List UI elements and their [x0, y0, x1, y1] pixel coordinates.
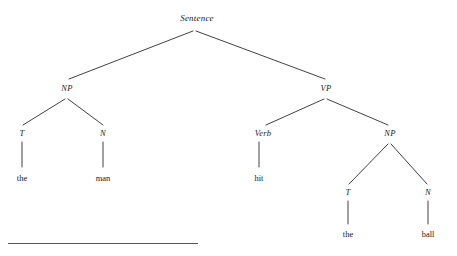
tree-terminal-word-hit: hit [255, 174, 264, 183]
tree-node-np1: NP [61, 84, 72, 93]
tree-terminal-word-the-2: the [343, 230, 353, 239]
tree-node-sentence: Sentence [180, 14, 214, 23]
tree-branch-sentence-to-np1 [69, 31, 193, 79]
tree-branch-np2-to-t2 [349, 144, 388, 184]
edge-layer [23, 31, 427, 184]
tree-node-verb: Verb [255, 129, 271, 138]
syntax-tree-diagram: SentenceNPVPTNVerbNPTN themanhittheball [0, 0, 457, 256]
tree-node-vp: VP [321, 84, 332, 93]
tree-branch-np2-to-n2 [391, 144, 427, 184]
footnote-separator-rule [8, 243, 198, 244]
tree-branch-np1-to-n1 [68, 99, 103, 125]
tree-node-n2: N [425, 188, 431, 197]
tree-branch-vp-to-np2 [327, 99, 388, 125]
tree-terminal-word-man: man [96, 174, 111, 183]
tree-branch-np1-to-t1 [23, 99, 65, 125]
tree-node-np2: NP [384, 129, 395, 138]
tree-branch-sentence-to-vp [196, 31, 325, 79]
tree-terminal-word-the-1: the [17, 174, 27, 183]
tree-terminal-word-ball: ball [422, 230, 435, 239]
tree-node-n1: N [100, 129, 106, 138]
tree-node-t2: T [346, 188, 351, 197]
tree-branch-vp-to-verb [266, 99, 324, 125]
stem-layer [22, 142, 428, 224]
tree-node-t1: T [20, 129, 25, 138]
